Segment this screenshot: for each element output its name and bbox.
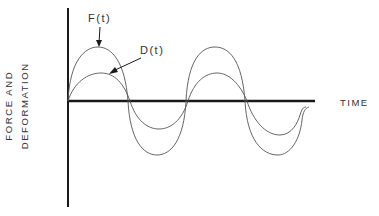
x-axis-label: TIME: [340, 98, 369, 108]
deformation-label-arrow: [109, 58, 141, 74]
y-axis-label-line1: FORCE AND: [4, 36, 14, 176]
force-label-arrow: [96, 27, 102, 47]
force-curve-label: F(t): [88, 13, 111, 24]
y-axis-label-line2: DEFORMATION: [20, 36, 30, 176]
diagram-canvas: [0, 0, 379, 216]
force-deformation-diagram: F(t) D(t) TIME FORCE AND DEFORMATION: [0, 0, 379, 216]
deformation-curve: [68, 73, 306, 135]
deformation-curve-label: D(t): [140, 45, 164, 56]
